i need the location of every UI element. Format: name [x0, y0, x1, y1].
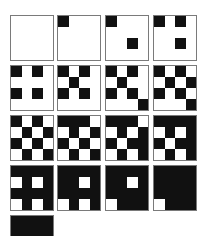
- white-cell: [175, 127, 186, 138]
- black-cell: [154, 138, 165, 149]
- black-cell: [106, 138, 117, 149]
- white-cell: [22, 138, 33, 149]
- white-cell: [22, 77, 33, 88]
- black-cell: [117, 149, 128, 160]
- black-cell: [175, 38, 186, 49]
- black-cell: [165, 116, 176, 127]
- white-cell: [175, 149, 186, 160]
- dither-tile-level-8: [10, 115, 54, 161]
- black-cell: [138, 99, 149, 110]
- white-cell: [11, 149, 22, 160]
- white-cell: [32, 127, 43, 138]
- white-cell: [138, 49, 149, 60]
- white-cell: [154, 38, 165, 49]
- white-cell: [69, 16, 80, 27]
- white-cell: [186, 49, 197, 60]
- dither-tile-level-5: [57, 65, 101, 111]
- dither-tile-level-2: [105, 15, 149, 61]
- white-cell: [165, 16, 176, 27]
- black-cell: [106, 66, 117, 77]
- white-cell: [22, 116, 33, 127]
- black-cell: [175, 116, 186, 127]
- white-cell: [79, 16, 90, 27]
- black-cell: [127, 88, 138, 99]
- white-cell: [138, 116, 149, 127]
- black-cell: [127, 138, 138, 149]
- black-cell: [58, 188, 69, 199]
- dither-tile-level-3: [153, 15, 197, 61]
- white-cell: [90, 16, 101, 27]
- black-cell: [117, 188, 128, 199]
- dither-tile-level-13: [57, 165, 101, 211]
- black-cell: [117, 116, 128, 127]
- white-cell: [154, 27, 165, 38]
- black-cell: [186, 77, 197, 88]
- white-cell: [138, 88, 149, 99]
- white-cell: [154, 77, 165, 88]
- dither-tile-level-7: [153, 65, 197, 111]
- black-cell: [186, 149, 197, 160]
- white-cell: [79, 127, 90, 138]
- white-cell: [138, 27, 149, 38]
- black-cell: [43, 149, 54, 160]
- dither-tile-level-1: [57, 15, 101, 61]
- black-cell: [43, 227, 54, 236]
- white-cell: [186, 66, 197, 77]
- white-cell: [58, 27, 69, 38]
- white-cell: [127, 127, 138, 138]
- dither-tile-level-10: [105, 115, 149, 161]
- black-cell: [43, 199, 54, 210]
- black-cell: [79, 116, 90, 127]
- white-cell: [106, 99, 117, 110]
- white-cell: [22, 99, 33, 110]
- dither-tile-level-0: [10, 15, 54, 61]
- black-cell: [106, 188, 117, 199]
- black-cell: [11, 116, 22, 127]
- black-cell: [117, 77, 128, 88]
- black-cell: [43, 166, 54, 177]
- black-cell: [79, 66, 90, 77]
- white-cell: [43, 116, 54, 127]
- black-cell: [69, 149, 80, 160]
- white-cell: [22, 88, 33, 99]
- black-cell: [186, 166, 197, 177]
- white-cell: [175, 77, 186, 88]
- black-cell: [58, 166, 69, 177]
- white-cell: [69, 66, 80, 77]
- black-cell: [138, 138, 149, 149]
- white-cell: [165, 88, 176, 99]
- black-cell: [32, 116, 43, 127]
- black-cell: [58, 177, 69, 188]
- black-cell: [106, 177, 117, 188]
- black-cell: [165, 199, 176, 210]
- white-cell: [69, 88, 80, 99]
- black-cell: [79, 188, 90, 199]
- white-cell: [117, 16, 128, 27]
- white-cell: [175, 99, 186, 110]
- white-cell: [127, 49, 138, 60]
- black-cell: [175, 16, 186, 27]
- white-cell: [58, 149, 69, 160]
- white-cell: [90, 99, 101, 110]
- white-cell: [32, 149, 43, 160]
- black-cell: [186, 127, 197, 138]
- white-cell: [117, 49, 128, 60]
- white-cell: [43, 38, 54, 49]
- white-cell: [127, 77, 138, 88]
- black-cell: [154, 88, 165, 99]
- black-cell: [22, 127, 33, 138]
- white-cell: [117, 27, 128, 38]
- white-cell: [43, 138, 54, 149]
- black-cell: [22, 166, 33, 177]
- black-cell: [165, 149, 176, 160]
- dither-tile-level-12: [10, 165, 54, 211]
- white-cell: [32, 16, 43, 27]
- white-cell: [43, 99, 54, 110]
- black-cell: [154, 188, 165, 199]
- white-cell: [106, 127, 117, 138]
- white-cell: [32, 99, 43, 110]
- black-cell: [175, 166, 186, 177]
- black-cell: [165, 177, 176, 188]
- white-cell: [106, 27, 117, 38]
- black-cell: [186, 199, 197, 210]
